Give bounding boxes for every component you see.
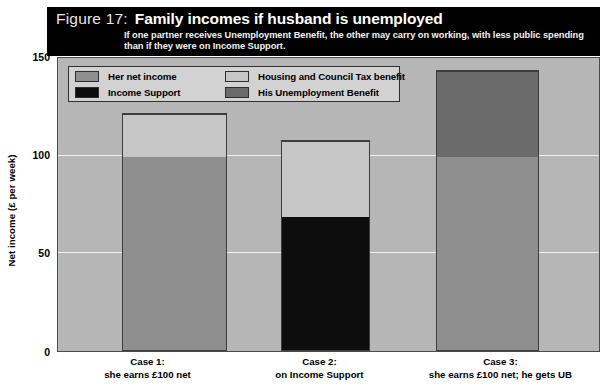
x-category-line1: Case 3: — [483, 356, 517, 367]
x-category-line2: on Income Support — [238, 369, 401, 382]
legend-swatch-icon — [225, 87, 249, 98]
legend-label: His Unemployment Benefit — [258, 87, 379, 98]
figure-subtitle: If one partner receives Unemployment Ben… — [124, 30, 594, 51]
bar-segment-housing-council-tax — [282, 141, 369, 217]
bar-segment-her-net-income — [437, 157, 539, 350]
bar-segment-housing-council-tax — [123, 114, 226, 157]
x-category-line1: Case 2: — [302, 356, 336, 367]
legend-item-housing-council-tax-benefit[interactable]: Housing and Council Tax benefit — [225, 71, 407, 82]
chart-legend: Her net income Housing and Council Tax b… — [68, 66, 400, 102]
y-axis: 150 100 50 0 Net income (£ per week) — [0, 0, 57, 390]
legend-swatch-icon — [75, 71, 99, 82]
bar-segment-his-unemployment-benefit — [437, 71, 539, 157]
x-category-case-1: Case 1: she earns £100 net — [57, 356, 238, 381]
bar-case-2[interactable] — [281, 140, 370, 351]
x-category-line1: Case 1: — [130, 356, 164, 367]
bar-case-3[interactable] — [436, 70, 540, 351]
page-title: Family incomes if husband is unemployed — [135, 10, 443, 27]
figure-number: Figure 17: — [56, 10, 128, 27]
y-axis-label: Net income (£ per week) — [6, 131, 17, 291]
x-category-line2: she earns £100 net — [57, 369, 238, 382]
title-line: Figure 17:Family incomes if husband is u… — [56, 10, 443, 28]
legend-item-her-net-income[interactable]: Her net income — [75, 71, 225, 82]
x-category-case-3: Case 3: she earns £100 net; he gets UB — [401, 356, 600, 381]
bar-segment-her-net-income — [123, 157, 226, 350]
legend-label: Income Support — [108, 87, 180, 98]
bar-segment-income-support — [282, 217, 369, 350]
legend-item-his-unemployment-benefit[interactable]: His Unemployment Benefit — [225, 87, 407, 98]
legend-label: Housing and Council Tax benefit — [258, 71, 405, 82]
figure-17-chart: Figure 17:Family incomes if husband is u… — [0, 0, 610, 390]
legend-item-income-support[interactable]: Income Support — [75, 87, 225, 98]
x-category-line2: she earns £100 net; he gets UB — [401, 369, 600, 382]
y-tick-150: 150 — [0, 51, 50, 63]
bar-case-1[interactable] — [122, 113, 227, 351]
legend-label: Her net income — [108, 71, 177, 82]
x-axis-labels: Case 1: she earns £100 net Case 2: on In… — [57, 356, 600, 381]
x-category-case-2: Case 2: on Income Support — [238, 356, 401, 381]
legend-swatch-icon — [75, 87, 99, 98]
title-banner: Figure 17:Family incomes if husband is u… — [47, 7, 600, 56]
legend-swatch-icon — [225, 71, 249, 82]
y-tick-0: 0 — [0, 346, 50, 358]
